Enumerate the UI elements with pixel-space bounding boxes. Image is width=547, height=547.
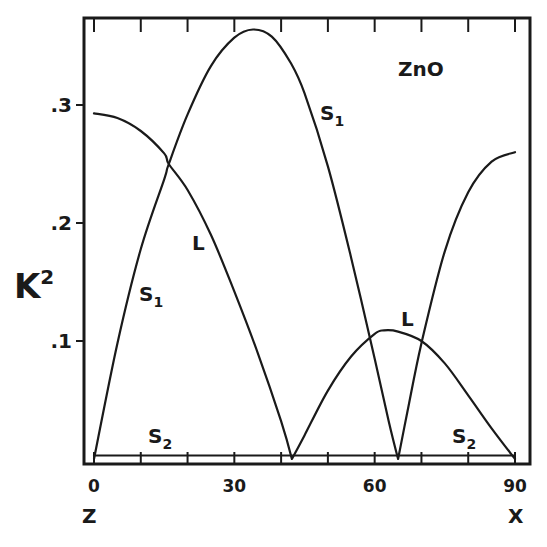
x-axis-start-label: Z [82, 504, 97, 528]
x-tick-label: 30 [222, 476, 246, 496]
curve-S1 [94, 29, 515, 459]
y-tick-label: .3 [50, 93, 72, 117]
x-axis-end-label: X [508, 504, 524, 528]
y-tick-labels: .1.2.3 [50, 93, 72, 353]
label-S2-left: S2 [148, 424, 172, 452]
curve-L [94, 113, 515, 459]
x-tick-label: 0 [88, 476, 100, 496]
y-axis-label-main: K [14, 266, 42, 306]
x-tick-labels: 0306090 [88, 476, 527, 496]
label-L-left: L [192, 231, 205, 255]
y-axis-label: K2 [14, 265, 54, 306]
x-tick-label: 90 [503, 476, 527, 496]
chart-title: ZnO [398, 57, 444, 81]
chart-root: 0306090 .1.2.3 ZnO K2 Z X S1 S1 L L S2 S… [0, 0, 547, 547]
label-L-right: L [401, 307, 414, 331]
label-S1-lower: S1 [139, 282, 163, 310]
x-ticks-top [94, 18, 515, 32]
x-ticks-bottom [94, 452, 515, 464]
label-S2-right: S2 [452, 424, 476, 452]
y-tick-label: .1 [50, 329, 72, 353]
plot-frame [84, 18, 530, 464]
y-axis-label-superscript: 2 [40, 265, 54, 289]
y-tick-label: .2 [50, 211, 72, 235]
label-S1-upper: S1 [320, 101, 344, 129]
x-tick-label: 60 [363, 476, 387, 496]
